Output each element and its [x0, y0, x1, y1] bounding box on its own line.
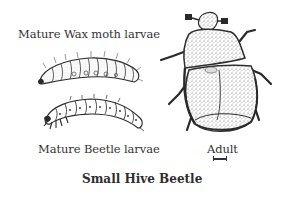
beetle-larvae-label: Mature Beetle larvae: [38, 142, 160, 156]
scale-bar: [213, 158, 227, 160]
wax-moth-larvae-label: Mature Wax moth larvae: [18, 27, 160, 41]
adult-label: Adult: [207, 142, 238, 156]
wax-moth-larva-illustration: [34, 48, 146, 88]
beetle-larva-illustration: [40, 92, 150, 134]
figure-title: Small Hive Beetle: [82, 172, 202, 186]
adult-beetle-illustration: [155, 8, 285, 138]
